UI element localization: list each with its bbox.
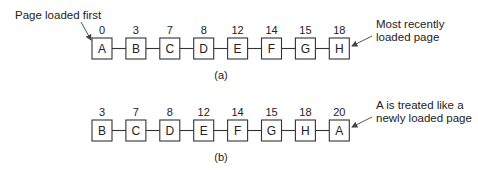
page-label: D [165, 124, 174, 138]
page-label: C [132, 124, 141, 138]
load-time-label: 7 [133, 106, 139, 118]
load-time-label: 14 [265, 24, 277, 36]
load-time-label: 12 [231, 24, 243, 36]
page-label: B [98, 124, 106, 138]
arrow-right-row-b [352, 117, 372, 127]
page-label: G [301, 42, 310, 56]
page-label: A [98, 42, 106, 56]
load-time-label: 3 [99, 106, 105, 118]
load-time-label: 8 [201, 24, 207, 36]
load-time-label: 0 [99, 24, 105, 36]
page-label: B [132, 42, 140, 56]
load-time-label: 15 [299, 24, 311, 36]
load-time-label: 18 [299, 106, 311, 118]
right-note-row-a-line2: loaded page [376, 31, 439, 43]
load-time-label: 8 [167, 106, 173, 118]
caption-row-a: (a) [214, 69, 227, 81]
right-note-row-b-line2: newly loaded page [376, 112, 472, 124]
page-label: G [267, 124, 276, 138]
page-label: F [268, 42, 275, 56]
page-label: D [199, 42, 208, 56]
arrow-left-row-a [81, 22, 91, 40]
load-time-label: 12 [198, 106, 210, 118]
page-label: H [301, 124, 310, 138]
page-label: E [234, 42, 242, 56]
page-label: H [335, 42, 344, 56]
page-label: A [335, 124, 343, 138]
load-time-label: 20 [333, 106, 345, 118]
load-time-label: 3 [133, 24, 139, 36]
page-list-diagram: Page loaded first Most recently loaded p… [0, 0, 478, 171]
left-note-row-a: Page loaded first [15, 9, 102, 21]
load-time-label: 15 [265, 106, 277, 118]
page-label: E [200, 124, 208, 138]
right-note-row-a-line1: Most recently [376, 18, 445, 30]
page-row-a: A0B3C7D8E12F14G15H18 [92, 24, 349, 59]
caption-row-b: (b) [214, 151, 227, 163]
page-label: C [165, 42, 174, 56]
load-time-label: 18 [333, 24, 345, 36]
arrow-right-row-a [352, 36, 372, 46]
load-time-label: 7 [167, 24, 173, 36]
page-label: F [234, 124, 241, 138]
right-note-row-b-line1: A is treated like a [376, 99, 464, 111]
page-row-b: B3C7D8E12F14G15H18A20 [92, 106, 349, 141]
load-time-label: 14 [231, 106, 243, 118]
